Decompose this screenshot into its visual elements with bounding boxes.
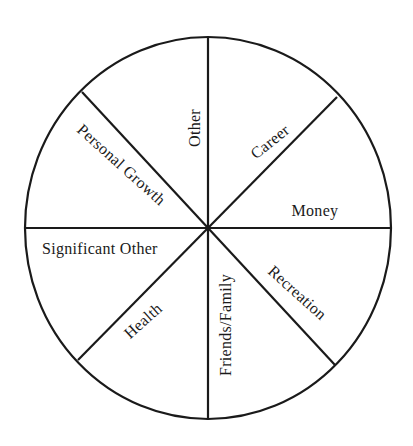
segment-label-other: Other	[187, 109, 203, 147]
wheel-diagram	[0, 0, 413, 446]
segment-label-friends-family: Friends/Family	[218, 274, 234, 376]
hub-dot	[206, 226, 211, 231]
segment-label-significant-other: Significant Other	[42, 241, 158, 257]
segment-label-money: Money	[292, 203, 339, 219]
